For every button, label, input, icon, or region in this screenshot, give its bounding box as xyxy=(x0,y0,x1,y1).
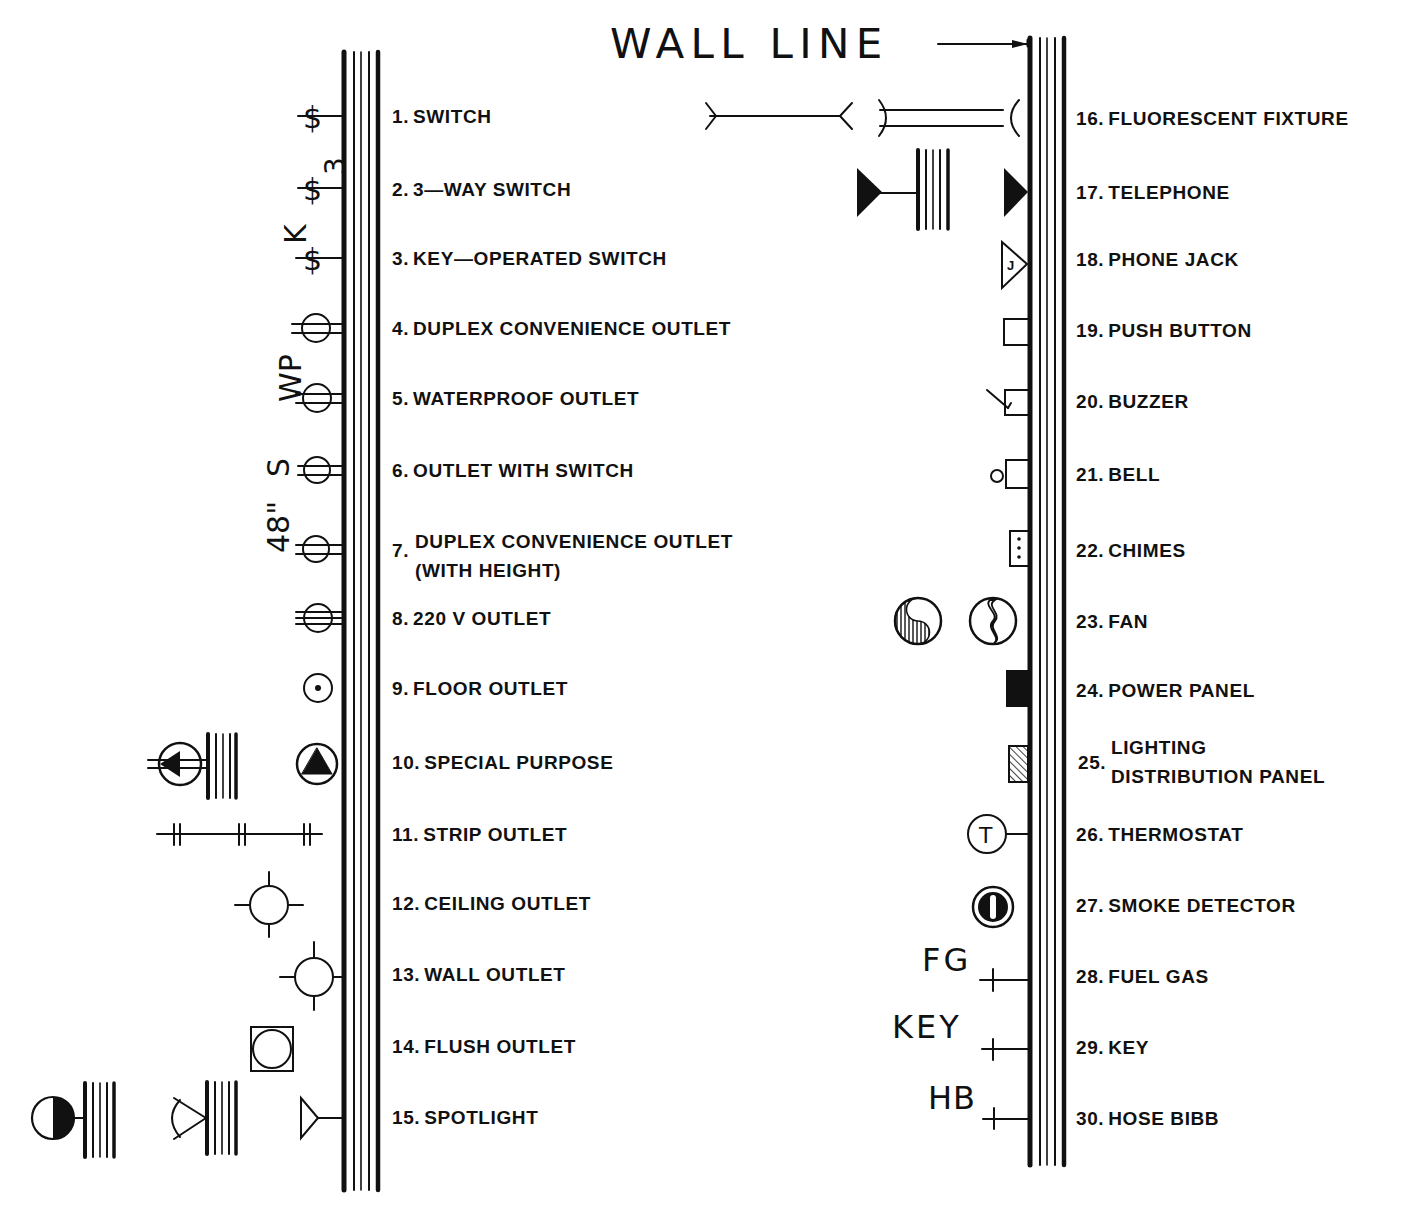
label-item-14: 14.FLUSH OUTLET xyxy=(392,1037,576,1056)
label-item-6: 6.OUTLET WITH SWITCH xyxy=(392,461,634,480)
thermostat-icon: T xyxy=(968,815,1028,853)
right-wall xyxy=(1030,38,1064,1165)
svg-text:$: $ xyxy=(303,242,322,277)
label-item-26: 26.THERMOSTAT xyxy=(1076,825,1243,844)
telephone-alt-icon xyxy=(857,150,948,229)
label-item-15: 15.SPOTLIGHT xyxy=(392,1108,538,1127)
electrical-symbols-diagram: $ $ $ xyxy=(0,0,1411,1207)
label-item-12: 12.CEILING OUTLET xyxy=(392,894,591,913)
hose-bibb-icon xyxy=(983,1108,1028,1129)
fuel-gas-annotation: FG xyxy=(922,944,971,976)
switch-icon: $ xyxy=(298,100,342,135)
fan-icon xyxy=(970,598,1016,644)
lighting-panel-icon xyxy=(1009,746,1028,782)
key-text-annotation: KEY xyxy=(892,1011,962,1043)
label-item-8: 8.220 V OUTLET xyxy=(392,609,551,628)
spotlight-alt-icon xyxy=(172,1082,236,1154)
duplex-outlet-height-icon xyxy=(296,536,342,562)
label-item-3: 3.KEY—OPERATED SWITCH xyxy=(392,249,667,268)
label-item-10: 10.SPECIAL PURPOSE xyxy=(392,753,613,772)
key-operated-switch-icon: $ xyxy=(296,242,342,277)
label-item-7: DUPLEX CONVENIENCE OUTLET(WITH HEIGHT) xyxy=(415,527,733,585)
label-item-29: 29.KEY xyxy=(1076,1038,1149,1057)
special-purpose-icon xyxy=(297,744,337,784)
push-button-icon xyxy=(1004,319,1028,345)
label-item-19: 19.PUSH BUTTON xyxy=(1076,321,1252,340)
label-item-25: LIGHTINGDISTRIBUTION PANEL xyxy=(1111,733,1325,791)
label-item-24: 24.POWER PANEL xyxy=(1076,681,1255,700)
fluorescent-fixture-icon xyxy=(879,100,1019,136)
floor-outlet-icon xyxy=(304,674,332,702)
spotlight-globe-icon xyxy=(32,1083,114,1157)
label-item-18: 18.PHONE JACK xyxy=(1076,250,1239,269)
hose-bibb-annotation: HB xyxy=(928,1082,976,1114)
key-annotation: K xyxy=(281,224,311,244)
key-icon xyxy=(982,1039,1028,1060)
telephone-icon xyxy=(1004,168,1028,217)
three-way-annotation: 3 xyxy=(322,157,350,175)
fan-alt-icon xyxy=(895,598,941,644)
label-item-16: 16.FLUORESCENT FIXTURE xyxy=(1076,109,1349,128)
thermostat-letter: T xyxy=(978,823,993,848)
smoke-detector-icon xyxy=(973,887,1013,927)
phone-jack-icon: J xyxy=(1002,242,1027,288)
svg-text:$: $ xyxy=(303,100,322,135)
label-item-9: 9.FLOOR OUTLET xyxy=(392,679,568,698)
phone-jack-letter: J xyxy=(1007,258,1014,273)
label-item-22: 22.CHIMES xyxy=(1076,541,1186,560)
label-item-2: 2.3—WAY SWITCH xyxy=(392,180,571,199)
height-annotation: 48" xyxy=(264,501,294,553)
spotlight-icon xyxy=(301,1098,342,1138)
label-item-5: 5.WATERPROOF OUTLET xyxy=(392,389,639,408)
outlet-220v-icon xyxy=(296,604,342,632)
label-item-7-num: 7. xyxy=(392,541,409,560)
flush-outlet-icon xyxy=(251,1027,293,1071)
label-item-4: 4.DUPLEX CONVENIENCE OUTLET xyxy=(392,319,731,338)
chimes-icon xyxy=(1010,531,1028,566)
waterproof-annotation: WP xyxy=(276,354,306,402)
buzzer-icon xyxy=(987,390,1028,415)
label-item-1: 1.SWITCH xyxy=(392,107,492,126)
wall-line-title: WALL LINE xyxy=(610,24,889,64)
strip-outlet-icon xyxy=(157,824,322,845)
label-item-28: 28.FUEL GAS xyxy=(1076,967,1209,986)
svg-text:$: $ xyxy=(303,172,322,207)
switch-annotation: S xyxy=(264,458,294,477)
label-item-30: 30.HOSE BIBB xyxy=(1076,1109,1219,1128)
label-item-13: 13.WALL OUTLET xyxy=(392,965,566,984)
power-panel-icon xyxy=(1006,670,1028,707)
outlet-with-switch-icon xyxy=(298,457,342,483)
left-wall xyxy=(344,52,378,1190)
duplex-outlet-icon xyxy=(292,314,342,342)
wall-line-arrow xyxy=(938,40,1028,48)
label-item-11: 11.STRIP OUTLET xyxy=(392,825,567,844)
bell-icon xyxy=(991,460,1028,488)
label-item-25-num: 25. xyxy=(1078,753,1106,772)
label-item-27: 27.SMOKE DETECTOR xyxy=(1076,896,1296,915)
three-way-switch-icon: $ xyxy=(298,172,342,207)
label-item-17: 17.TELEPHONE xyxy=(1076,183,1230,202)
label-item-20: 20.BUZZER xyxy=(1076,392,1189,411)
special-purpose-alt-icon xyxy=(148,734,236,798)
fluorescent-fixture-alt-icon xyxy=(706,103,852,129)
fuel-gas-icon xyxy=(980,969,1028,991)
wall-outlet-icon xyxy=(280,942,342,1010)
ceiling-outlet-icon xyxy=(235,872,303,937)
label-item-23: 23.FAN xyxy=(1076,612,1148,631)
label-item-21: 21.BELL xyxy=(1076,465,1160,484)
